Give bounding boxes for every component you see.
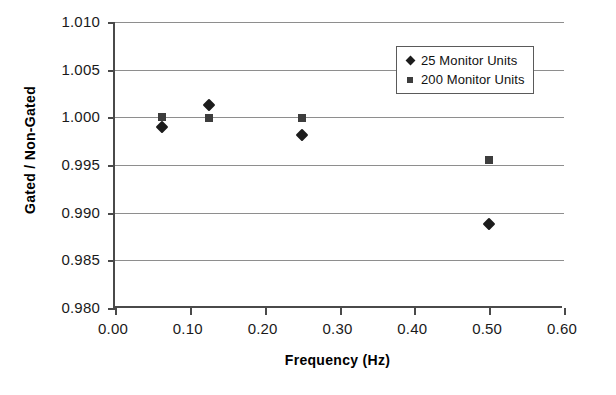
x-axis-title: Frequency (Hz) <box>113 352 562 368</box>
y-tick-label: 0.980 <box>30 299 100 316</box>
y-tick-mark <box>108 260 115 262</box>
y-tick-mark <box>108 165 115 167</box>
x-tick-label: 0.00 <box>83 320 143 337</box>
x-tick-mark <box>340 308 342 315</box>
x-tick-label: 0.50 <box>457 320 517 337</box>
legend-square-icon <box>403 77 417 83</box>
data-point-square <box>158 113 166 121</box>
x-tick-label: 0.40 <box>382 320 442 337</box>
data-point-square <box>298 114 306 122</box>
x-tick-mark <box>265 308 267 315</box>
gridline-y <box>115 165 564 166</box>
gridline-y <box>115 213 564 214</box>
y-tick-label: 0.995 <box>30 156 100 173</box>
y-tick-label: 0.990 <box>30 204 100 221</box>
data-point-diamond <box>202 99 215 112</box>
x-tick-mark <box>115 308 117 315</box>
y-tick-label: 1.005 <box>30 61 100 78</box>
x-tick-mark <box>414 308 416 315</box>
y-tick-mark <box>108 308 115 310</box>
x-tick-label: 0.30 <box>308 320 368 337</box>
y-tick-label: 1.000 <box>30 108 100 125</box>
chart-figure: Gated / Non-Gated 0.9800.9850.9900.9951.… <box>0 0 616 395</box>
y-tick-label: 0.985 <box>30 251 100 268</box>
y-tick-mark <box>108 70 115 72</box>
chart-legend: 25 Monitor Units200 Monitor Units <box>396 46 534 94</box>
data-point-diamond <box>155 120 168 133</box>
x-tick-mark <box>489 308 491 315</box>
gridline-y <box>115 22 564 23</box>
gridline-y <box>115 117 564 118</box>
gridline-y <box>115 260 564 261</box>
x-tick-label: 0.60 <box>532 320 592 337</box>
data-point-square <box>485 156 493 164</box>
legend-diamond-icon <box>403 57 417 64</box>
y-tick-mark <box>108 213 115 215</box>
data-point-diamond <box>483 218 496 231</box>
x-tick-mark <box>564 308 566 315</box>
legend-item-label: 25 Monitor Units <box>421 53 517 68</box>
x-tick-label: 0.20 <box>233 320 293 337</box>
legend-item[interactable]: 25 Monitor Units <box>403 51 525 70</box>
x-tick-label: 0.10 <box>158 320 218 337</box>
legend-item-label: 200 Monitor Units <box>421 72 525 87</box>
legend-item[interactable]: 200 Monitor Units <box>403 70 525 89</box>
y-tick-mark <box>108 117 115 119</box>
y-tick-mark <box>108 22 115 24</box>
data-point-square <box>205 114 213 122</box>
data-point-diamond <box>296 129 309 142</box>
y-tick-label: 1.010 <box>30 13 100 30</box>
x-tick-mark <box>190 308 192 315</box>
